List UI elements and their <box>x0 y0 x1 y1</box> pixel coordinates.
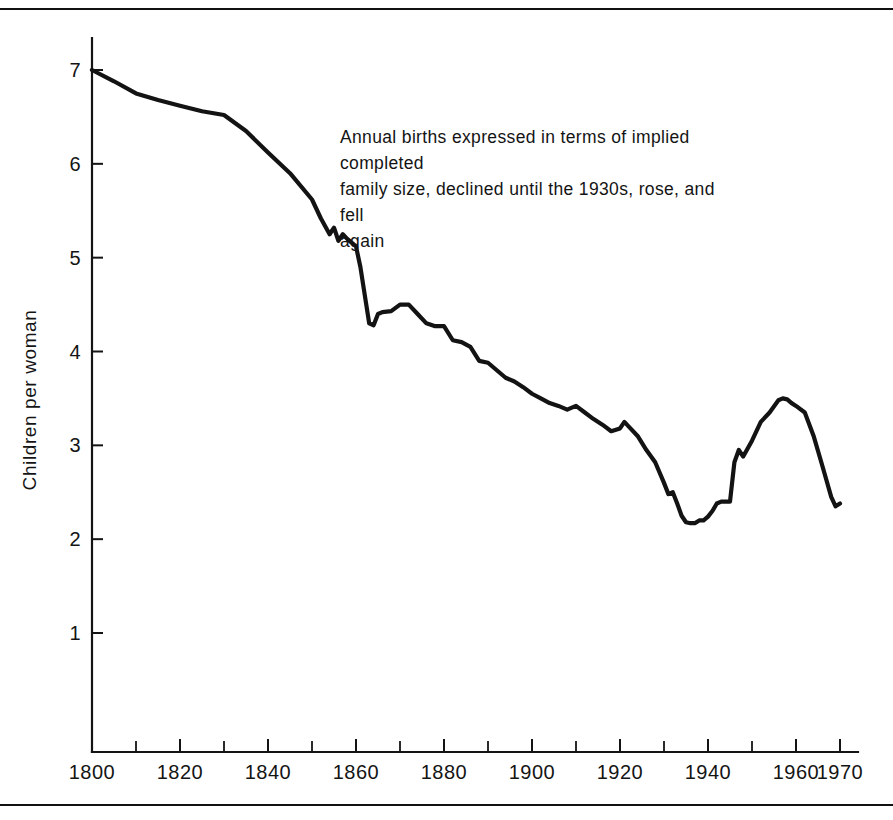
y-tick-label-3: 3 <box>69 434 81 456</box>
y-tick-label-1: 1 <box>69 622 81 644</box>
y-tick-label-2: 2 <box>69 528 81 550</box>
chart-svg: 1234567 18001820184018601880190019201940… <box>0 0 893 820</box>
y-tick-labels: 1234567 <box>69 59 81 644</box>
y-tick-label-5: 5 <box>69 247 81 269</box>
y-axis-title: Children per woman <box>19 310 40 491</box>
x-tick-marks <box>92 739 840 752</box>
y-tick-label-7: 7 <box>69 59 81 81</box>
x-tick-label-1800: 1800 <box>69 761 116 783</box>
x-tick-label-1920: 1920 <box>597 761 644 783</box>
x-tick-label-1970: 1970 <box>817 761 864 783</box>
figure-container: 1234567 18001820184018601880190019201940… <box>0 0 893 820</box>
x-tick-label-1840: 1840 <box>245 761 292 783</box>
x-tick-label-1880: 1880 <box>421 761 468 783</box>
chart-plot-area: 1234567 18001820184018601880190019201940… <box>0 0 893 820</box>
x-tick-label-1940: 1940 <box>685 761 732 783</box>
x-tick-label-1900: 1900 <box>509 761 556 783</box>
y-tick-marks <box>92 70 103 633</box>
x-tick-label-1820: 1820 <box>157 761 204 783</box>
chart-annotation-text: Annual births expressed in terms of impl… <box>340 124 740 254</box>
x-tick-labels: 1800182018401860188019001920194019601970 <box>69 761 864 783</box>
x-tick-label-1860: 1860 <box>333 761 380 783</box>
y-tick-label-4: 4 <box>69 341 81 363</box>
y-tick-label-6: 6 <box>69 153 81 175</box>
x-tick-label-1960: 1960 <box>773 761 820 783</box>
